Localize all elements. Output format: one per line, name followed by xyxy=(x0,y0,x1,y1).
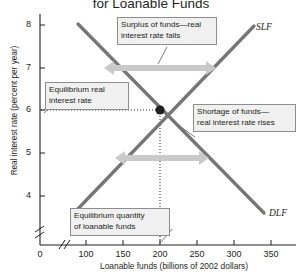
x-tick-label-200: 200 xyxy=(147,249,173,259)
curve-label-slf: SLF xyxy=(256,22,272,32)
surplus-leader-line xyxy=(158,47,167,64)
x-tick-label-150: 150 xyxy=(110,249,136,259)
callout-equilibrium-quantity-line2: of loanable funds xyxy=(74,222,166,233)
callout-equilibrium-rate-line2: interest rate xyxy=(49,96,125,107)
x-tick-label-300: 300 xyxy=(221,249,247,259)
y-tick-label-5: 5 xyxy=(22,147,35,157)
callout-shortage: Shortage of funds— real interest rate ri… xyxy=(193,104,296,132)
y-tick-label-7: 7 xyxy=(22,62,35,72)
callout-surplus-line2: interest rate falls xyxy=(121,31,213,42)
y-tick-label-4: 4 xyxy=(22,190,35,200)
equilibrium-point[interactable] xyxy=(155,105,164,114)
x-tick-label-0: 0 xyxy=(33,249,47,259)
curve-label-dlf: DLF xyxy=(269,208,287,218)
y-tick-label-8: 8 xyxy=(22,19,35,29)
callout-equilibrium-quantity-line1: Equilibrium quantity xyxy=(74,211,166,222)
x-tick-label-100: 100 xyxy=(73,249,99,259)
surplus-double-arrow xyxy=(104,61,216,75)
loanable-funds-figure: for Loanable Funds xyxy=(0,0,302,277)
callout-equilibrium-rate: Equilibrium real interest rate xyxy=(45,82,129,110)
shortage-leader-line xyxy=(171,120,195,137)
y-axis-label: Real interest rate (percent per year) xyxy=(10,13,19,209)
callout-surplus-line1: Surplus of funds—real xyxy=(121,20,213,31)
x-tick-label-250: 250 xyxy=(184,249,210,259)
callout-surplus: Surplus of funds—real interest rate fall… xyxy=(117,17,217,45)
x-tick-label-350: 350 xyxy=(258,249,284,259)
y-tick-label-6: 6 xyxy=(22,104,35,114)
callout-equilibrium-rate-line1: Equilibrium real xyxy=(49,85,125,96)
x-axis-label: Loanable funds (billions of 2002 dollars… xyxy=(100,261,248,271)
callout-shortage-line1: Shortage of funds— xyxy=(197,107,292,118)
callout-shortage-line2: real interest rate rises xyxy=(197,118,292,129)
shortage-double-arrow xyxy=(115,151,209,165)
callout-equilibrium-quantity: Equilibrium quantity of loanable funds xyxy=(70,208,170,236)
